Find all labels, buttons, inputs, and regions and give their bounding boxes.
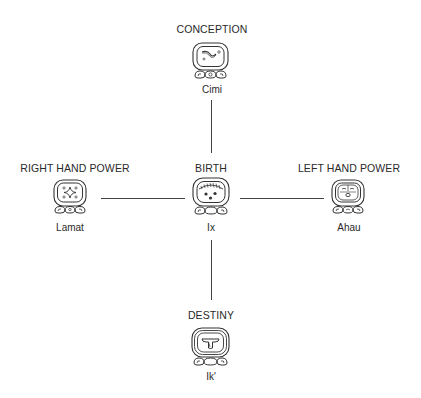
connector-conception-birth xyxy=(211,100,212,153)
heading-conception: CONCEPTION xyxy=(176,23,247,35)
glyph-label-lamat: Lamat xyxy=(56,222,84,234)
cimi-day-sign-icon xyxy=(192,42,229,79)
connector-birth-destiny xyxy=(211,240,212,300)
ix-day-sign-icon xyxy=(192,177,230,215)
ahau-day-sign-icon xyxy=(331,179,365,214)
glyph-label-cimi: Cimi xyxy=(202,84,222,96)
connector-birth-left-hand xyxy=(240,198,324,199)
heading-left-hand-power: LEFT HAND POWER xyxy=(298,162,400,174)
glyph-label-ik: Ik' xyxy=(206,371,216,383)
connector-right-hand-birth xyxy=(101,198,185,199)
glyph-label-ahau: Ahau xyxy=(337,222,360,234)
heading-destiny: DESTINY xyxy=(188,309,234,321)
heading-right-hand-power: RIGHT HAND POWER xyxy=(20,162,129,174)
lamat-day-sign-icon xyxy=(53,179,87,214)
heading-birth: BIRTH xyxy=(195,162,227,174)
ik-day-sign-icon xyxy=(191,327,230,366)
glyph-label-ix: Ix xyxy=(207,222,215,234)
